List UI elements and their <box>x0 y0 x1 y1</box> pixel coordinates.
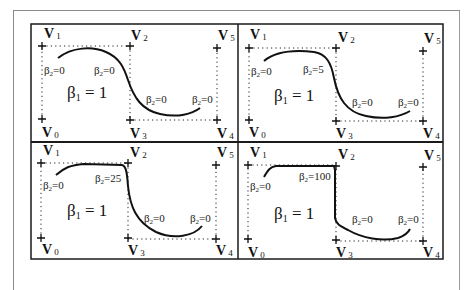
vertex-label-v1: V1 <box>44 26 61 41</box>
vertex-label-v5: V5 <box>217 145 234 160</box>
vertex-label-v2: V2 <box>131 28 148 43</box>
vertex-label-v1: V1 <box>43 143 60 158</box>
vertex-label-v4: V4 <box>423 126 440 141</box>
beta-spline-curve <box>264 51 410 118</box>
beta1-label: β1 = 1 <box>274 86 314 106</box>
panel-beta2-0: V1 V2 V5 V0 V3 V4 β2=0 β2=0 β2=0 β2=0 β1… <box>38 26 235 141</box>
panel-beta2-25: V1 V2 V5 V0 V3 V4 β2=0 β2=25 β2=0 β2=0 β… <box>37 143 234 258</box>
panel-beta2-100: V1 V2 V5 V0 V3 V4 β2=0 β2=100 β2=0 β2=0 … <box>244 145 441 260</box>
beta2-label: β2=100 <box>299 170 331 184</box>
vertex-label-v5: V5 <box>424 31 441 46</box>
beta2-label: β2=0 <box>250 180 271 194</box>
vertex-label-v0: V0 <box>248 245 265 260</box>
beta2-label: β2=0 <box>190 212 211 226</box>
vertex-label-v0: V0 <box>42 125 59 140</box>
beta-spline-curve <box>56 164 202 236</box>
beta2-label: β2=0 <box>94 64 115 78</box>
beta2-label: β2=0 <box>146 93 167 107</box>
panel-beta2-5: V1 V2 V5 V0 V3 V4 β2=0 β2=5 β2=0 β2=0 β1… <box>245 27 441 141</box>
vertex-label-v2: V2 <box>338 147 355 162</box>
vertex-label-v4: V4 <box>217 126 234 141</box>
vertex-label-v5: V5 <box>424 148 441 163</box>
beta2-label: β2=25 <box>95 172 122 186</box>
beta2-label: β2=0 <box>398 213 419 227</box>
beta1-label: β1 = 1 <box>67 201 107 221</box>
beta-spline-curve <box>58 48 200 115</box>
beta2-label: β2=0 <box>251 65 272 79</box>
vertex-label-v0: V0 <box>42 242 59 257</box>
vertex-label-v1: V1 <box>250 145 267 160</box>
vertex-label-v3: V3 <box>128 243 145 258</box>
vertex-label-v2: V2 <box>130 145 147 160</box>
vertex-label-v1: V1 <box>250 27 267 42</box>
beta2-label: β2=0 <box>352 96 373 110</box>
vertex-label-v0: V0 <box>249 125 266 140</box>
vertex-label-v2: V2 <box>338 30 355 45</box>
vertex-label-v4: V4 <box>423 245 440 260</box>
beta2-label: β2=5 <box>303 63 324 77</box>
beta2-label: β2=0 <box>352 213 373 227</box>
beta2-label: β2=0 <box>398 96 419 110</box>
beta2-label: β2=0 <box>144 212 165 226</box>
vertex-label-v3: V3 <box>336 126 353 141</box>
beta2-label: β2=0 <box>44 64 65 78</box>
vertex-label-v4: V4 <box>216 243 233 258</box>
vertex-label-v5: V5 <box>218 28 235 43</box>
vertex-label-v3: V3 <box>336 245 353 260</box>
beta-spline-curve <box>264 166 410 240</box>
beta1-label: β1 = 1 <box>274 204 314 224</box>
beta2-label: β2=0 <box>43 179 64 193</box>
beta2-label: β2=0 <box>192 93 213 107</box>
vertex-label-v3: V3 <box>130 126 147 141</box>
vertex-markers <box>37 159 220 243</box>
beta1-label: β1 = 1 <box>67 83 107 103</box>
